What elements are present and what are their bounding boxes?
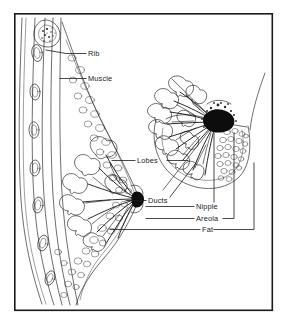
label-nipple: Nipple (196, 202, 218, 211)
label-areola: Areola (196, 214, 219, 223)
anatomy-diagram-canvas: Rib Muscle Lobes Ducts Nipple Areola Fat (0, 0, 288, 327)
anatomy-figure: Rib Muscle Lobes Ducts Nipple Areola Fat (0, 0, 288, 327)
label-fat: Fat (202, 225, 213, 234)
label-muscle: Muscle (88, 74, 112, 83)
label-rib: Rib (88, 49, 100, 58)
label-lobes: Lobes (137, 156, 158, 165)
label-ducts: Ducts (148, 196, 168, 205)
